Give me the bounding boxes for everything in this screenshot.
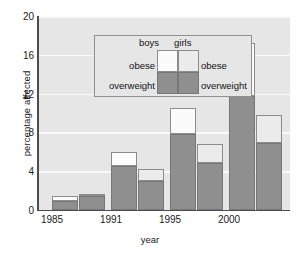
legend-swatch-boys-obese: [157, 50, 178, 72]
y-tick-4: 4: [8, 167, 34, 177]
legend-column-girls: [178, 50, 199, 94]
legend-label-girls-obese: obese: [201, 61, 227, 71]
x-tick-1991: 1991: [81, 214, 141, 225]
x-tick-2000: 2000: [199, 214, 259, 225]
segment-1985-boys-obese[interactable]: [52, 196, 78, 201]
legend-swatch-girls-obese: [178, 50, 199, 72]
x-tick-1995: 1995: [140, 214, 200, 225]
y-tick-8: 8: [8, 128, 34, 138]
y-tick-16: 16: [8, 51, 34, 61]
legend-swatch-boys-overweight: [157, 72, 178, 94]
segment-2000-girls-overweight[interactable]: [256, 143, 282, 210]
segment-1991-girls-obese[interactable]: [138, 169, 164, 181]
legend-label-girls-overweight: overweight: [201, 81, 247, 91]
x-axis-line: [37, 210, 290, 212]
segment-2000-girls-obese[interactable]: [256, 115, 282, 143]
chart-legend: boys girls obese overweight obese overwe…: [94, 35, 252, 97]
segment-1995-girls-overweight[interactable]: [197, 163, 223, 211]
segment-1995-girls-obese[interactable]: [197, 144, 223, 162]
x-axis-label: year: [0, 234, 300, 245]
y-tick-12: 12: [8, 90, 34, 100]
segment-1991-girls-overweight[interactable]: [138, 181, 164, 210]
segment-1995-boys-obese[interactable]: [170, 108, 196, 134]
y-axis-line: [37, 16, 39, 211]
chart-figure: percentage affected 20 16 12 8 4 0: [0, 0, 300, 259]
segment-1985-girls-overweight[interactable]: [79, 196, 105, 210]
legend-label-boys-overweight: overweight: [79, 81, 155, 91]
segment-1985-girls-obese[interactable]: [79, 194, 105, 196]
legend-swatch-girls-overweight: [178, 72, 199, 94]
segment-1991-boys-obese[interactable]: [111, 152, 137, 167]
legend-label-boys-obese: obese: [95, 61, 155, 71]
legend-header-boys: boys: [139, 37, 159, 48]
segment-2000-boys-overweight[interactable]: [229, 96, 255, 211]
y-tick-20: 20: [8, 12, 34, 22]
x-tick-1985: 1985: [22, 214, 82, 225]
legend-swatches: [157, 50, 199, 94]
plot-area: boys girls obese overweight obese overwe…: [38, 16, 290, 210]
legend-column-boys: [157, 50, 178, 94]
legend-header-girls: girls: [174, 37, 191, 48]
segment-1995-boys-overweight[interactable]: [170, 134, 196, 210]
segment-1991-boys-overweight[interactable]: [111, 166, 137, 210]
